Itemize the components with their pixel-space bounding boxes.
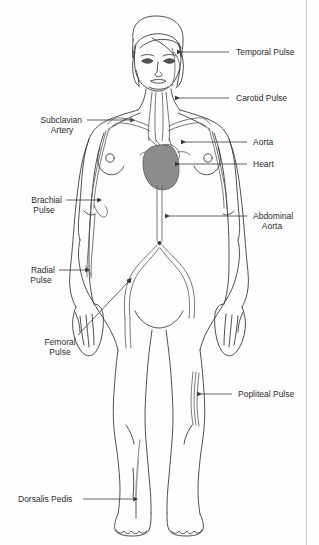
toes-left (116, 530, 147, 534)
finger-right-1 (234, 316, 238, 345)
breast-right-outline (194, 148, 220, 175)
label-radial-pulse-line1: Radial (31, 265, 55, 275)
nose-outline (155, 62, 162, 77)
leg-left-inner (145, 330, 152, 513)
arm-right-inner (214, 133, 229, 304)
label-brachial-pulse-line1: Brachial (31, 195, 62, 205)
label-popliteal-pulse: Popliteal Pulse (238, 389, 295, 399)
carotid-artery-right-2 (162, 92, 163, 141)
leg-right-inner (166, 330, 173, 513)
arm-left-outer (70, 139, 89, 307)
hair-strand-1 (140, 39, 181, 48)
heart-shape (143, 145, 179, 190)
mouth-outline (151, 80, 166, 84)
panel-right-divider (306, 0, 307, 545)
knee-crease-right (184, 425, 192, 444)
torso-right-outline (180, 110, 240, 240)
eye-left-outline (142, 59, 153, 64)
nipple-left (106, 154, 114, 162)
label-carotid-pulse: Carotid Pulse (236, 93, 287, 103)
torso-left-outline (78, 110, 138, 240)
anatomy-figure-panel: Temporal Pulse Carotid Pulse Aorta Heart… (0, 0, 319, 545)
knee-crease-left (126, 425, 134, 444)
femoral-artery-left-1 (125, 318, 126, 348)
nipple-right (204, 154, 212, 162)
clavicle-right (178, 113, 206, 127)
label-text-group: Temporal Pulse Carotid Pulse Aorta Heart… (18, 47, 295, 504)
leg-left-outer (113, 350, 120, 514)
femoral-artery-left-2 (130, 318, 131, 348)
radial-artery-left-2 (91, 214, 95, 278)
hair-outline (133, 16, 184, 58)
dorsalis-pedis-artery (136, 462, 138, 518)
hip-right-outline (200, 300, 226, 350)
hair-sideburn-right (177, 68, 180, 86)
thumb-right (238, 312, 243, 332)
arterial-pulse-diagram: Temporal Pulse Carotid Pulse Aorta Heart… (0, 0, 319, 545)
brachial-pulse-hook (94, 205, 107, 217)
crotch-line (135, 311, 183, 328)
elbow-crease-right (223, 211, 234, 215)
label-subclavian-artery-line2: Artery (51, 125, 74, 135)
label-heart: Heart (253, 159, 274, 169)
label-temporal-pulse: Temporal Pulse (236, 47, 295, 57)
toes-right (171, 530, 202, 534)
eye-right-outline (164, 59, 175, 64)
eyebrow-left (141, 55, 154, 57)
label-abdominal-aorta-line1: Abdominal (253, 211, 293, 221)
carotid-artery-left (148, 92, 152, 141)
label-brachial-pulse-line2: Pulse (33, 205, 55, 215)
neck-left (138, 89, 146, 110)
shin-line-left (133, 468, 134, 497)
finger-left-2 (86, 315, 89, 347)
elbow-crease-left (84, 211, 95, 215)
popliteal-artery-right-1 (194, 372, 196, 425)
arm-left-inner (89, 133, 104, 304)
hair-side-left (133, 52, 139, 86)
label-radial-pulse-line2: Pulse (30, 275, 52, 285)
thumb-left (75, 312, 80, 332)
finger-right-3 (224, 314, 226, 345)
dorsalis-pedis-artery-upper (138, 440, 140, 462)
popliteal-artery-right-3 (197, 373, 199, 426)
aortic-bifurcation-point (157, 241, 161, 245)
waist-right (226, 240, 240, 300)
label-femoral-pulse-line2: Pulse (49, 347, 71, 357)
label-subclavian-artery-line1: Subclavian (40, 115, 82, 125)
popliteal-artery-right-2 (191, 372, 193, 425)
label-femoral-pulse-line1: Femoral (44, 337, 75, 347)
finger-right-2 (229, 315, 232, 347)
hip-left-outline (92, 300, 118, 350)
neck-right (171, 89, 180, 110)
label-aorta: Aorta (253, 137, 274, 147)
carotid-artery-left-2 (155, 92, 156, 141)
breast-left-outline (98, 148, 124, 175)
label-dorsalis-pedis: Dorsalis Pedis (18, 494, 72, 504)
carotid-artery-right (166, 92, 170, 141)
label-abdominal-aorta-line2: Aorta (262, 221, 283, 231)
body-outline-group (70, 16, 249, 536)
